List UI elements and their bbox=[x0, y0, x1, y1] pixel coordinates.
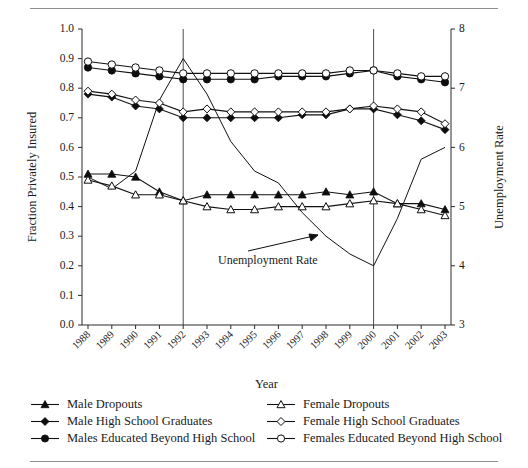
y-tick-label-left: 0.2 bbox=[60, 259, 75, 271]
legend-label-male-hs-graduates: Male High School Graduates bbox=[67, 415, 212, 428]
legend-item-male-hs-graduates[interactable]: Male High School Graduates bbox=[30, 413, 266, 430]
x-tick-label: 1997 bbox=[284, 329, 307, 352]
y-tick-label-left: 0.7 bbox=[60, 111, 75, 123]
marker-females-beyond-hs bbox=[322, 70, 329, 77]
series-line-male-dropouts bbox=[88, 174, 445, 210]
marker-female-hs-graduates bbox=[441, 120, 449, 128]
marker-females-beyond-hs bbox=[370, 67, 377, 74]
series-line-female-hs-graduates bbox=[88, 91, 445, 124]
x-tick-label: 2001 bbox=[379, 329, 402, 352]
marker-females-beyond-hs bbox=[156, 67, 163, 74]
figure-root: 0.00.10.20.30.40.50.60.70.80.91.03456781… bbox=[0, 0, 528, 468]
y-tick-label-left: 0.0 bbox=[60, 318, 75, 330]
series-line-males-beyond-hs bbox=[88, 67, 445, 82]
legend-item-male-dropouts[interactable]: Male Dropouts bbox=[30, 396, 266, 413]
y-tick-label-right: 4 bbox=[459, 259, 465, 271]
legend-label-female-hs-graduates: Female High School Graduates bbox=[303, 415, 460, 428]
marker-female-hs-graduates bbox=[251, 108, 259, 116]
legend-item-females-beyond-hs[interactable]: Females Educated Beyond High School bbox=[266, 430, 500, 447]
marker-females-beyond-hs bbox=[275, 70, 282, 77]
legend-item-males-beyond-hs[interactable]: Males Educated Beyond High School bbox=[30, 430, 266, 447]
y-tick-label-left: 0.1 bbox=[60, 289, 75, 301]
marker-female-hs-graduates bbox=[274, 108, 282, 116]
x-tick-label: 1988 bbox=[70, 329, 93, 352]
marker-female-hs-graduates bbox=[227, 108, 235, 116]
legend-marker-open-diamond-icon bbox=[266, 415, 296, 428]
x-tick-label: 2003 bbox=[427, 329, 450, 352]
marker-females-beyond-hs bbox=[418, 73, 425, 80]
x-tick-label: 1994 bbox=[213, 328, 236, 351]
x-tick-label: 2002 bbox=[403, 329, 426, 352]
y-tick-label-left: 1.0 bbox=[60, 22, 75, 34]
marker-male-hs-graduates bbox=[417, 117, 425, 125]
legend-marker-open-triangle-icon bbox=[266, 398, 296, 411]
chart-legend: Male DropoutsFemale DropoutsMale High Sc… bbox=[30, 396, 500, 447]
x-tick-label: 1990 bbox=[117, 329, 140, 352]
marker-female-dropouts bbox=[370, 197, 378, 204]
x-tick-label: 2000 bbox=[355, 329, 378, 352]
marker-females-beyond-hs bbox=[441, 73, 448, 80]
marker-female-hs-graduates bbox=[393, 105, 401, 113]
marker-females-beyond-hs bbox=[180, 70, 187, 77]
legend-item-female-hs-graduates[interactable]: Female High School Graduates bbox=[266, 413, 500, 430]
y-tick-label-left: 0.9 bbox=[60, 52, 75, 64]
y-tick-label-right: 7 bbox=[459, 81, 465, 93]
unemployment-rate-annotation-arrowhead bbox=[309, 234, 318, 241]
series-line-female-dropouts bbox=[88, 180, 445, 216]
marker-female-hs-graduates bbox=[417, 108, 425, 116]
y-tick-label-right: 6 bbox=[459, 141, 465, 153]
legend-label-males-beyond-hs: Males Educated Beyond High School bbox=[67, 432, 255, 445]
legend-marker-open-circle-icon bbox=[266, 432, 296, 445]
marker-females-beyond-hs bbox=[108, 61, 115, 68]
marker-females-beyond-hs bbox=[84, 58, 91, 65]
y-axis-title-right: Unemployment Rate bbox=[492, 125, 506, 229]
x-axis-title: Year bbox=[255, 377, 279, 391]
x-tick-label: 1995 bbox=[236, 329, 259, 352]
legend-label-male-dropouts: Male Dropouts bbox=[67, 398, 142, 411]
legend-item-female-dropouts[interactable]: Female Dropouts bbox=[266, 396, 500, 413]
marker-female-hs-graduates bbox=[346, 105, 354, 113]
y-tick-label-left: 0.8 bbox=[60, 81, 75, 93]
marker-female-hs-graduates bbox=[203, 105, 211, 113]
marker-females-beyond-hs bbox=[299, 70, 306, 77]
x-tick-label: 1999 bbox=[332, 329, 355, 352]
y-tick-label-left: 0.4 bbox=[60, 200, 75, 212]
legend-label-female-dropouts: Female Dropouts bbox=[303, 398, 389, 411]
unemployment-rate-annotation-label: Unemployment Rate bbox=[218, 253, 318, 267]
marker-females-beyond-hs bbox=[132, 64, 139, 71]
x-tick-label: 1998 bbox=[308, 329, 331, 352]
x-tick-label: 1989 bbox=[94, 329, 117, 352]
marker-females-beyond-hs bbox=[346, 67, 353, 74]
unemployment-rate-annotation-leader bbox=[248, 235, 318, 251]
y-tick-label-right: 5 bbox=[459, 200, 465, 212]
legend-marker-filled-diamond-icon bbox=[30, 415, 60, 428]
series-line-unemployment-rate bbox=[88, 59, 445, 266]
y-tick-label-left: 0.3 bbox=[60, 229, 75, 241]
y-tick-label-right: 8 bbox=[459, 22, 465, 34]
marker-male-dropouts bbox=[322, 188, 330, 195]
y-tick-label-left: 0.6 bbox=[60, 141, 75, 153]
legend-marker-filled-triangle-icon bbox=[30, 398, 60, 411]
marker-females-beyond-hs bbox=[203, 70, 210, 77]
marker-male-dropouts bbox=[370, 188, 378, 195]
legend-label-females-beyond-hs: Females Educated Beyond High School bbox=[303, 432, 502, 445]
marker-male-hs-graduates bbox=[203, 114, 211, 122]
x-tick-label: 1996 bbox=[260, 329, 283, 352]
x-tick-label: 1992 bbox=[165, 329, 188, 352]
marker-female-hs-graduates bbox=[155, 99, 163, 107]
marker-females-beyond-hs bbox=[251, 70, 258, 77]
legend-marker-filled-circle-icon bbox=[30, 432, 60, 445]
y-axis-title-left: Fraction Privately Insured bbox=[25, 111, 39, 242]
x-tick-label: 1991 bbox=[141, 329, 164, 352]
x-tick-label: 1993 bbox=[189, 329, 212, 352]
marker-females-beyond-hs bbox=[227, 70, 234, 77]
y-tick-label-right: 3 bbox=[459, 318, 465, 330]
marker-females-beyond-hs bbox=[394, 70, 401, 77]
marker-female-hs-graduates bbox=[179, 108, 187, 116]
y-tick-label-left: 0.5 bbox=[60, 170, 75, 182]
marker-female-hs-graduates bbox=[132, 96, 140, 104]
